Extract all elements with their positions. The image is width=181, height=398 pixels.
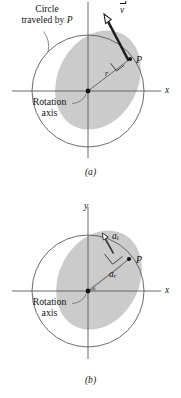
- rotation-label-line2-a: axis: [42, 107, 58, 118]
- point-p-marker-b: [127, 257, 131, 261]
- a-t-subscript: t: [117, 234, 119, 241]
- velocity-symbol: v: [120, 5, 124, 16]
- rotation-label-line1-a: Rotation: [33, 96, 67, 107]
- velocity-vector-label: v: [120, 5, 124, 16]
- rotation-axis-label-a: Rotation axis: [22, 97, 77, 119]
- point-p-label-a: P: [136, 54, 142, 65]
- point-p-label-b: P: [136, 254, 142, 265]
- disk-shape-icon: [38, 15, 157, 144]
- rotation-axis-label-b: Rotation axis: [22, 297, 77, 319]
- tangential-acceleration-label: at: [112, 231, 119, 242]
- a-r-subscript: r: [114, 272, 117, 279]
- panel-caption-a: (a): [0, 167, 181, 178]
- point-p-marker: [128, 57, 132, 61]
- velocity-arrowhead-icon: [104, 14, 111, 24]
- origin-dot: [86, 89, 91, 94]
- circle-label-line2: traveled by: [21, 14, 64, 25]
- circle-label-line1: Circle: [35, 3, 58, 14]
- disk-shape-icon-b: [39, 215, 158, 344]
- rotation-label-line1-b: Rotation: [33, 296, 67, 307]
- panel-b: y at P ar x Rotation axis (b): [0, 199, 181, 398]
- panel-a: Circle traveled by P v P r x Rotation ax…: [0, 0, 181, 199]
- circle-traveled-label: Circle traveled by P: [8, 4, 86, 25]
- rotating-disk-a: [38, 15, 157, 144]
- radial-acceleration-label: ar: [109, 269, 116, 280]
- circle-label-leader: [44, 32, 49, 53]
- rotating-disk-b: [39, 215, 158, 344]
- x-axis-label-a: x: [165, 85, 169, 96]
- rotation-figure: Circle traveled by P v P r x Rotation ax…: [0, 0, 181, 398]
- y-axis-label-b: y: [84, 201, 88, 212]
- x-axis-label-b: x: [165, 285, 169, 296]
- rotation-label-line2-b: axis: [42, 307, 58, 318]
- panel-caption-b: (b): [0, 375, 181, 386]
- origin-dot-b: [86, 289, 91, 294]
- radius-label-a: r: [105, 70, 108, 79]
- circle-label-point: P: [67, 14, 73, 25]
